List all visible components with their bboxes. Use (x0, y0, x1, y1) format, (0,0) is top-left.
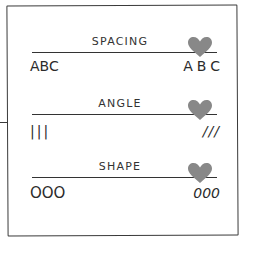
heart-icon[interactable] (187, 99, 213, 121)
left-connector-line (0, 122, 8, 123)
section-shape: SHAPE OOO 000 (0, 0, 254, 50)
section-label: ANGLE (60, 97, 180, 110)
heart-icon[interactable] (187, 162, 213, 184)
section-label: SHAPE (60, 160, 180, 173)
left-sample: ||| (30, 123, 50, 139)
right-sample: 000 (193, 185, 220, 201)
left-sample: OOO (30, 184, 65, 202)
right-sample: /// (203, 123, 220, 139)
right-sample: ABC (183, 58, 224, 74)
left-sample: ABC (30, 58, 59, 74)
